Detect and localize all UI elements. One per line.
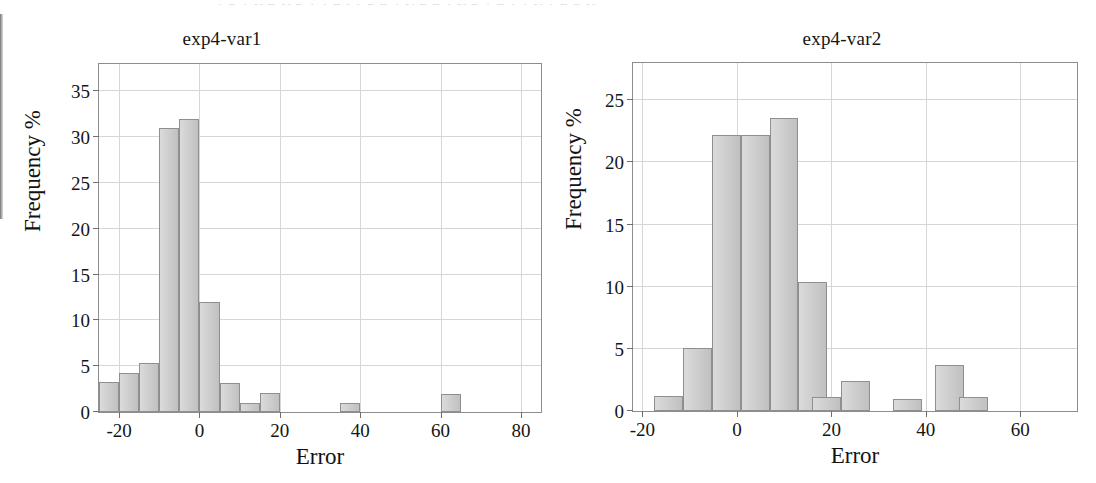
- histogram-bar: [441, 394, 461, 412]
- chart-title-left: exp4-var1: [0, 28, 500, 50]
- x-axis-tick-label: 60: [1011, 420, 1030, 439]
- x-axis-label-left: Error: [99, 444, 541, 470]
- histogram-bar: [959, 397, 988, 411]
- y-axis-tick-mark: [93, 411, 99, 412]
- y-axis-label-left: Frequency %: [20, 61, 46, 281]
- y-axis-tick-mark: [93, 182, 99, 183]
- y-axis-tick-label: 15: [605, 215, 624, 234]
- histogram-bar: [159, 128, 179, 412]
- histogram-bar: [712, 135, 741, 411]
- histogram-bar: [798, 282, 827, 411]
- plot-area-left: Error 05101520253035-20020406080: [98, 63, 542, 413]
- x-axis-tick-label: -20: [630, 420, 655, 439]
- chart-panel-right: exp4-var2 Frequency % Error 0510152025-2…: [556, 0, 1096, 483]
- gridline-vertical: [119, 64, 120, 412]
- x-axis-tick-mark: [926, 411, 927, 417]
- x-axis-tick-mark: [1020, 411, 1021, 417]
- x-axis-tick-label: -20: [106, 421, 131, 440]
- y-axis-tick-label: 20: [605, 153, 624, 172]
- plot-area-right: Error 0510152025-200204060: [632, 62, 1078, 412]
- x-axis-tick-mark: [360, 412, 361, 418]
- histogram-bar: [260, 393, 280, 412]
- y-axis-label-right: Frequency %: [561, 59, 587, 279]
- y-axis-tick-mark: [93, 90, 99, 91]
- y-axis-tick-label: 25: [71, 174, 90, 193]
- x-axis-tick-label: 80: [511, 421, 530, 440]
- y-axis-tick-label: 20: [71, 219, 90, 238]
- chart-panel-left: exp4-var1 Frequency % Error 051015202530…: [0, 0, 556, 483]
- gridline-vertical: [280, 64, 281, 412]
- y-axis-tick-label: 15: [71, 265, 90, 284]
- y-axis-tick-mark: [627, 224, 633, 225]
- y-axis-tick-mark: [627, 161, 633, 162]
- y-axis-tick-mark: [93, 319, 99, 320]
- x-axis-tick-label: 0: [732, 420, 742, 439]
- x-axis-tick-mark: [280, 412, 281, 418]
- histogram-bar: [340, 403, 360, 412]
- x-axis-tick-label: 60: [431, 421, 450, 440]
- gridline-horizontal: [99, 90, 541, 91]
- gridline-horizontal: [633, 286, 1077, 287]
- histogram-bar: [741, 135, 770, 411]
- x-axis-tick-mark: [642, 411, 643, 417]
- gridline-horizontal: [633, 161, 1077, 162]
- y-axis-tick-label: 5: [81, 357, 91, 376]
- histogram-bar: [240, 403, 260, 412]
- x-axis-tick-mark: [737, 411, 738, 417]
- gridline-vertical: [642, 63, 643, 411]
- y-axis-tick-label: 30: [71, 128, 90, 147]
- y-axis-tick-label: 5: [615, 339, 625, 358]
- gridline-vertical: [831, 63, 832, 411]
- histogram-bar: [199, 302, 219, 412]
- x-axis-tick-mark: [119, 412, 120, 418]
- x-axis-tick-mark: [441, 412, 442, 418]
- histogram-bar: [893, 399, 922, 411]
- x-axis-tick-label: 20: [822, 420, 841, 439]
- y-axis-tick-mark: [627, 348, 633, 349]
- x-axis-tick-mark: [831, 411, 832, 417]
- histogram-bar: [683, 348, 712, 411]
- histogram-bar: [220, 383, 240, 412]
- histogram-bar: [179, 119, 199, 412]
- gridline-vertical: [360, 64, 361, 412]
- x-axis-tick-label: 40: [351, 421, 370, 440]
- gridline-horizontal: [633, 224, 1077, 225]
- gridline-vertical: [521, 64, 522, 412]
- y-axis-tick-mark: [93, 228, 99, 229]
- gridline-vertical: [1020, 63, 1021, 411]
- y-axis-tick-label: 0: [615, 402, 625, 421]
- y-axis-tick-mark: [93, 136, 99, 137]
- y-axis-tick-mark: [627, 99, 633, 100]
- gridline-vertical: [926, 63, 927, 411]
- histogram-bar: [841, 381, 870, 411]
- y-axis-tick-label: 10: [71, 311, 90, 330]
- histogram-bar: [812, 397, 841, 411]
- y-axis-tick-mark: [627, 286, 633, 287]
- y-axis-tick-label: 0: [81, 403, 91, 422]
- y-axis-tick-label: 10: [605, 277, 624, 296]
- histogram-bar: [770, 118, 799, 411]
- x-axis-tick-mark: [521, 412, 522, 418]
- gridline-horizontal: [633, 99, 1077, 100]
- histogram-bar: [99, 382, 119, 412]
- chart-title-right: exp4-var2: [572, 28, 1096, 50]
- x-axis-tick-label: 0: [195, 421, 205, 440]
- x-axis-label-right: Error: [633, 443, 1077, 469]
- histogram-bar: [119, 373, 139, 412]
- y-axis-tick-label: 25: [605, 91, 624, 110]
- gridline-vertical: [441, 64, 442, 412]
- y-axis-tick-label: 35: [71, 82, 90, 101]
- x-axis-tick-label: 40: [916, 420, 935, 439]
- figure-root: A R A N D N R A A E I A R B A N R E A N …: [0, 0, 1096, 483]
- y-axis-tick-mark: [93, 274, 99, 275]
- y-axis-tick-mark: [93, 365, 99, 366]
- histogram-bar: [139, 363, 159, 412]
- histogram-bar: [654, 396, 683, 411]
- y-axis-tick-mark: [627, 410, 633, 411]
- x-axis-tick-label: 20: [270, 421, 289, 440]
- x-axis-tick-mark: [199, 412, 200, 418]
